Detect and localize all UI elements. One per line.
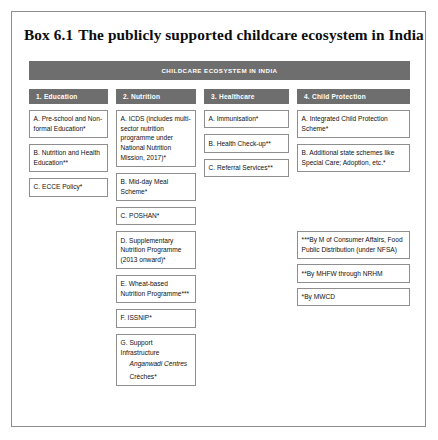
item-cell: E. Wheat-based Nutrition Programme*** [116,275,196,303]
item-cell: B. Additional state schemes like Special… [297,144,410,172]
item-cell: C. ECCE Policy* [29,178,108,196]
column-header-row: 1. Education2. Nutrition3. Healthcare4. … [29,89,427,104]
item-label: B. Health Check-up** [209,140,271,147]
item-sublabel-italic: Anganwadi Centres [121,359,192,369]
page-title: Box 6.1The publicly supported childcare … [24,26,424,44]
item-label: B. Mid-day Meal Scheme* [121,178,169,195]
item-sublabel: Crèches* [121,372,192,382]
item-label: A. ICDS (includes multi-sector nutrition… [121,115,191,160]
column-education: A. Pre-school and Non-formal Education*B… [29,110,108,203]
column-header-label: 1. Education [36,93,78,100]
item-cell: G. Support InfrastructureAnganwadi Centr… [116,334,196,387]
item-cell: A. Immunisation* [204,110,289,128]
notes-spacer [297,178,410,231]
column-header-education: 1. Education [29,89,108,104]
item-cell: B. Nutrition and Health Education** [29,144,108,172]
footnote-cell: *By MWCD [297,288,410,306]
item-label: C. POSHAN* [121,212,160,219]
column-healthcare: A. Immunisation*B. Health Check-up**C. R… [204,110,289,183]
column-header-label: 3. Healthcare [211,93,255,100]
box-title-text: The publicly supported childcare ecosyst… [78,26,424,43]
item-label: C. ECCE Policy* [34,183,83,190]
item-cell: F. ISSNIP* [116,309,196,327]
box-container: Box 6.1The publicly supported childcare … [11,11,426,427]
ecosystem-banner: CHILDCARE ECOSYSTEM IN INDIA [29,61,410,80]
item-label: B. Additional state schemes like Special… [302,149,395,166]
item-cell: B. Health Check-up** [204,134,289,152]
box-label: Box 6.1 [24,26,73,43]
footnote-label: ***By M of Consumer Affairs, Food Public… [302,236,403,253]
item-cell: D. Supplementary Nutrition Programme (20… [116,231,196,269]
item-label: D. Supplementary Nutrition Programme (20… [121,237,182,263]
item-cell: B. Mid-day Meal Scheme* [116,173,196,201]
column-header-label: 4. Child Protection [304,93,366,100]
column-header-label: 2. Nutrition [123,93,160,100]
item-label: C. Referral Services** [209,164,273,171]
footnote-label: *By MWCD [302,293,335,300]
item-label: A. Integrated Child Protection Scheme* [302,115,388,132]
item-label: A. Pre-school and Non-formal Education* [34,115,103,132]
footnote-cell: ***By M of Consumer Affairs, Food Public… [297,231,410,259]
item-cell: A. Pre-school and Non-formal Education* [29,110,108,138]
item-label: A. Immunisation* [209,115,259,122]
item-cell: A. ICDS (includes multi-sector nutrition… [116,110,196,167]
item-label: E. Wheat-based Nutrition Programme*** [121,280,190,297]
column-header-child-protection: 4. Child Protection [297,89,410,104]
item-cell: C. Referral Services** [204,159,289,177]
footnote-cell: **By MHFW through NRHM [297,264,410,282]
column-header-healthcare: 3. Healthcare [204,89,289,104]
item-cell: A. Integrated Child Protection Scheme* [297,110,410,138]
item-label: B. Nutrition and Health Education** [34,149,100,166]
item-label: F. ISSNIP* [121,314,152,321]
item-label: G. Support Infrastructure [121,339,160,356]
item-cell: C. POSHAN* [116,207,196,225]
ecosystem-banner-label: CHILDCARE ECOSYSTEM IN INDIA [161,67,277,74]
column-child-protection: A. Integrated Child Protection Scheme*B.… [297,110,410,311]
column-header-nutrition: 2. Nutrition [116,89,196,104]
column-nutrition: A. ICDS (includes multi-sector nutrition… [116,110,196,392]
footnote-label: **By MHFW through NRHM [302,270,383,277]
